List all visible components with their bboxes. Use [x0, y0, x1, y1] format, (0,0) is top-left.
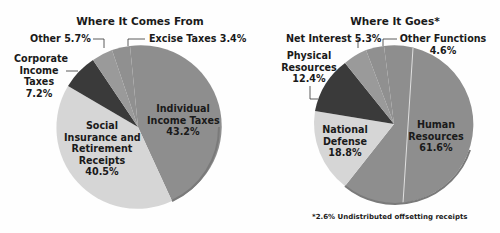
left-chart-title: Where It Comes From — [70, 15, 210, 27]
label-line: Resources — [404, 131, 468, 143]
label-human-resources: Human Resources 61.6% — [404, 119, 468, 154]
label-other: Other 5.7% — [30, 33, 91, 45]
label-line: 4.6% — [398, 45, 488, 57]
label-line: Taxes — [14, 76, 64, 88]
label-net-interest: Net Interest 5.3% — [286, 33, 381, 45]
label-line: Receipts — [64, 155, 140, 167]
label-line: 18.8% — [317, 147, 373, 159]
label-individual-income-taxes: Individual Income Taxes 43.2% — [147, 103, 219, 138]
label-line: Human — [404, 119, 468, 131]
label-line: 12.4% — [281, 73, 337, 85]
label-other-functions: Other Functions 4.6% — [398, 33, 488, 56]
label-line: Insurance and — [64, 132, 140, 144]
label-line: Resources — [281, 62, 337, 74]
footnote: *2.6% Undistributed offsetting receipts — [312, 213, 467, 221]
label-line: Other Functions — [398, 33, 488, 45]
label-physical-resources: Physical Resources 12.4% — [281, 50, 337, 85]
right-chart-title: Where It Goes* — [340, 15, 450, 27]
label-line: Individual — [147, 103, 219, 115]
label-line: 61.6% — [404, 142, 468, 154]
label-excise-taxes: Excise Taxes 3.4% — [149, 33, 246, 45]
label-line: Income — [14, 65, 64, 77]
label-line: Defense — [317, 136, 373, 148]
label-corporate: Corporate Income Taxes 7.2% — [14, 53, 64, 99]
label-social-insurance: Social Insurance and Retirement Receipts… — [64, 120, 140, 178]
label-line: Retirement — [64, 143, 140, 155]
label-line: 40.5% — [64, 166, 140, 178]
label-line: Social — [64, 120, 140, 132]
label-national-defense: National Defense 18.8% — [317, 124, 373, 159]
label-line: National — [317, 124, 373, 136]
label-line: Physical — [281, 50, 337, 62]
label-line: 7.2% — [14, 88, 64, 100]
label-line: 43.2% — [147, 126, 219, 138]
label-line: Income Taxes — [147, 115, 219, 127]
label-line: Corporate — [14, 53, 64, 65]
